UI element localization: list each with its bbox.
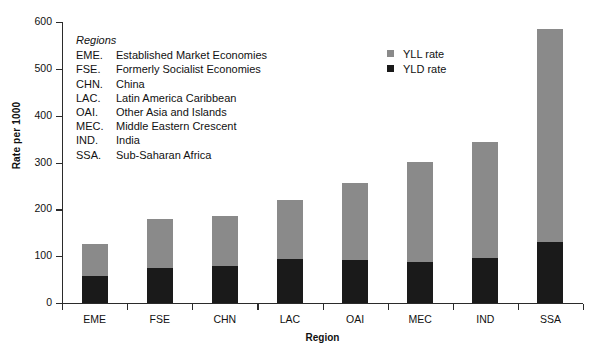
legend-label: YLD rate <box>403 63 446 75</box>
region-name: Formerly Socialist Economies <box>116 62 267 76</box>
region-code: EME. <box>76 48 116 62</box>
region-name: Latin America Caribbean <box>116 91 267 105</box>
bar-segment-yll-ssa <box>537 29 563 242</box>
region-name: Other Asia and Islands <box>116 105 267 119</box>
region-code: LAC. <box>76 91 116 105</box>
region-code: OAI. <box>76 105 116 119</box>
bar-segment-yll-chn <box>212 216 238 266</box>
region-row: OAI.Other Asia and Islands <box>76 105 267 119</box>
region-code: SSA. <box>76 148 116 162</box>
stacked-bar-chart: Rate per 1000 0100200300400500600 EMEFSE… <box>0 0 594 353</box>
y-tick-label-0: 0 <box>22 296 52 308</box>
x-tick-label-chn: CHN <box>195 313 255 325</box>
region-name: Established Market Economies <box>116 48 267 62</box>
x-tick-boundary-5 <box>388 304 389 310</box>
x-tick-label-eme: EME <box>65 313 125 325</box>
x-tick-label-mec: MEC <box>390 313 450 325</box>
bar-segment-yld-chn <box>212 266 238 303</box>
y-tick-600 <box>56 22 62 23</box>
bar-segment-yll-oai <box>342 183 368 260</box>
y-axis-line <box>62 22 63 304</box>
region-code: FSE. <box>76 62 116 76</box>
region-row: IND.India <box>76 133 267 147</box>
bar-segment-yll-mec <box>407 162 433 262</box>
bar-segment-yll-lac <box>277 200 303 259</box>
y-axis-title: Rate per 1000 <box>11 76 22 196</box>
region-name: China <box>116 77 267 91</box>
region-row: SSA.Sub-Saharan Africa <box>76 148 267 162</box>
region-code: CHN. <box>76 77 116 91</box>
region-name: Sub-Saharan Africa <box>116 148 267 162</box>
y-tick-label-300: 300 <box>22 156 52 168</box>
bar-segment-yll-fse <box>147 219 173 268</box>
bar-segment-yld-ind <box>472 258 498 303</box>
legend-label: YLL rate <box>403 48 444 60</box>
region-name: Middle Eastern Crescent <box>116 119 267 133</box>
bar-segment-yld-oai <box>342 260 368 303</box>
x-tick-label-ind: IND <box>455 313 515 325</box>
region-row: FSE.Formerly Socialist Economies <box>76 62 267 76</box>
x-tick-label-fse: FSE <box>130 313 190 325</box>
y-tick-label-500: 500 <box>22 62 52 74</box>
x-tick-boundary-3 <box>257 304 258 310</box>
legend-entry-yld: YLD rate <box>387 61 446 76</box>
bar-segment-yll-ind <box>472 142 498 258</box>
y-tick-400 <box>56 116 62 117</box>
y-tick-label-200: 200 <box>22 202 52 214</box>
x-axis-title: Region <box>62 332 583 343</box>
region-row: EME.Established Market Economies <box>76 48 267 62</box>
x-tick-boundary-8 <box>583 304 584 310</box>
x-tick-label-oai: OAI <box>325 313 385 325</box>
x-tick-boundary-4 <box>323 304 324 310</box>
y-tick-label-400: 400 <box>22 109 52 121</box>
bar-segment-yll-eme <box>82 244 108 276</box>
x-tick-boundary-6 <box>453 304 454 310</box>
x-tick-label-lac: LAC <box>260 313 320 325</box>
regions-legend: Regions EME.Established Market Economies… <box>76 33 267 162</box>
region-code: MEC. <box>76 119 116 133</box>
square-marker-icon <box>387 65 394 72</box>
x-tick-label-ssa: SSA <box>520 313 580 325</box>
y-tick-200 <box>56 209 62 210</box>
regions-legend-title: Regions <box>76 33 267 47</box>
bar-segment-yld-eme <box>82 276 108 303</box>
region-name: India <box>116 133 267 147</box>
x-tick-boundary-1 <box>127 304 128 310</box>
regions-legend-rows: EME.Established Market EconomiesFSE.Form… <box>76 48 267 162</box>
region-row: MEC.Middle Eastern Crescent <box>76 119 267 133</box>
y-tick-label-600: 600 <box>22 15 52 27</box>
bar-segment-yld-ssa <box>537 242 563 303</box>
bar-segment-yld-fse <box>147 268 173 303</box>
region-row: LAC.Latin America Caribbean <box>76 91 267 105</box>
y-tick-100 <box>56 256 62 257</box>
bar-segment-yld-lac <box>277 259 303 303</box>
square-marker-icon <box>387 50 394 57</box>
x-tick-boundary-7 <box>518 304 519 310</box>
region-code: IND. <box>76 133 116 147</box>
region-row: CHN.China <box>76 77 267 91</box>
x-tick-boundary-0 <box>62 304 63 310</box>
x-tick-boundary-2 <box>192 304 193 310</box>
series-legend: YLL rateYLD rate <box>387 46 446 76</box>
y-tick-500 <box>56 69 62 70</box>
y-tick-300 <box>56 163 62 164</box>
legend-entry-yll: YLL rate <box>387 46 446 61</box>
bar-segment-yld-mec <box>407 262 433 303</box>
y-tick-label-100: 100 <box>22 249 52 261</box>
